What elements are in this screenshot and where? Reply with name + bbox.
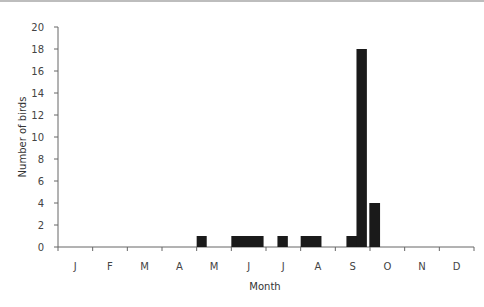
bar bbox=[277, 236, 287, 247]
x-tick-label: A bbox=[315, 261, 322, 272]
y-tick-label: 16 bbox=[31, 66, 44, 77]
y-tick-label: 6 bbox=[38, 176, 44, 187]
bar bbox=[301, 236, 322, 247]
labels: 02468101214161820JFMAMJJASOND bbox=[31, 22, 461, 273]
bar-chart: 02468101214161820JFMAMJJASOND Month Numb… bbox=[0, 0, 484, 307]
x-tick-label: A bbox=[176, 261, 183, 272]
x-tick-label: M bbox=[140, 261, 149, 272]
y-tick-label: 10 bbox=[31, 132, 44, 143]
x-tick-label: J bbox=[281, 261, 285, 272]
y-tick-label: 2 bbox=[38, 220, 44, 231]
y-axis-title: Number of birds bbox=[17, 97, 28, 178]
y-tick-label: 18 bbox=[31, 44, 44, 55]
y-tick-label: 8 bbox=[38, 154, 44, 165]
y-tick-label: 4 bbox=[38, 198, 44, 209]
y-tick-label: 20 bbox=[31, 22, 44, 33]
bar bbox=[231, 236, 263, 247]
x-tick-label: D bbox=[453, 261, 461, 272]
y-tick-label: 12 bbox=[31, 110, 44, 121]
bar bbox=[197, 236, 207, 247]
x-tick-label: S bbox=[349, 261, 355, 272]
bar bbox=[346, 236, 357, 247]
x-tick-label: M bbox=[210, 261, 219, 272]
x-tick-label: N bbox=[418, 261, 425, 272]
x-tick-label: F bbox=[107, 261, 113, 272]
x-tick-label: J bbox=[246, 261, 250, 272]
bar bbox=[356, 49, 366, 247]
axes bbox=[54, 27, 474, 251]
x-tick-label: O bbox=[383, 261, 391, 272]
y-tick-label: 14 bbox=[31, 88, 44, 99]
bar bbox=[369, 203, 380, 247]
x-axis-title: Month bbox=[249, 281, 280, 292]
y-tick-label: 0 bbox=[38, 242, 44, 253]
x-tick-label: J bbox=[73, 261, 77, 272]
bars bbox=[197, 49, 380, 247]
